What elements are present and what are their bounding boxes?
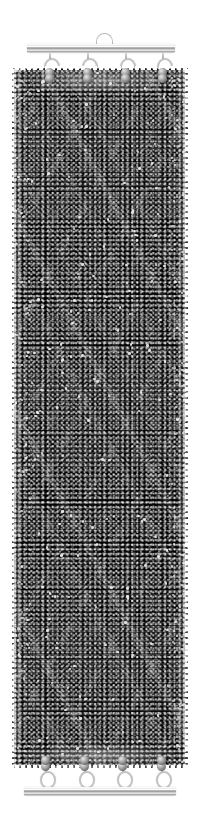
bar-highlight: [24, 789, 176, 790]
fringe-bead: [157, 756, 166, 765]
fringe-bead: [121, 74, 130, 83]
fringe-bead: [158, 74, 167, 83]
fringe-bead: [118, 756, 127, 765]
bar-highlight: [27, 46, 175, 47]
fringe-bead: [83, 74, 92, 83]
fringe-bead: [41, 756, 50, 765]
bottom-clasp-bar: [24, 787, 176, 796]
image-alt-text: Wide cuff bracelet of black and metallic…: [0, 0, 1, 1]
image-canvas: Wide cuff bracelet of black and metallic…: [0, 0, 201, 825]
bar-shadow: [27, 51, 175, 52]
bead-grain-b: [12, 68, 188, 768]
bar-shadow: [24, 794, 176, 795]
top-clasp-bar: [27, 44, 175, 53]
bead-band: [12, 68, 188, 768]
right-edge-scallop: [184, 68, 191, 768]
fringe-bead: [80, 756, 89, 765]
left-edge-scallop: [9, 68, 16, 768]
fringe-bead: [45, 74, 54, 83]
